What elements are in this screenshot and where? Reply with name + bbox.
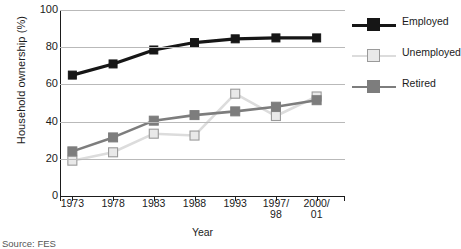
marker-unemployed-3 [190, 131, 199, 140]
legend-marker-icon [367, 18, 380, 31]
x-axis-title: Year [60, 226, 345, 238]
gridline-60 [60, 84, 345, 85]
gridline-20 [60, 159, 345, 160]
legend-item-employed[interactable]: Employed [352, 12, 455, 43]
marker-employed-0 [68, 71, 76, 79]
marker-unemployed-5 [271, 112, 280, 121]
source-note: Source: FES [2, 238, 56, 249]
marker-retired-0 [68, 147, 77, 156]
marker-retired-3 [190, 111, 199, 120]
gridline-40 [60, 122, 345, 123]
marker-unemployed-1 [109, 148, 118, 157]
legend-label: Employed [402, 15, 449, 27]
y-tick-100: 100 [24, 4, 58, 15]
legend-item-unemployed[interactable]: Unemployed [352, 43, 455, 74]
marker-retired-1 [109, 133, 118, 142]
chart-legend: EmployedUnemployedRetired [352, 12, 455, 105]
marker-employed-4 [231, 35, 239, 43]
legend-marker-icon [367, 80, 380, 93]
x-tick-line: 01 [287, 209, 347, 220]
series-lines [60, 10, 345, 196]
y-tick-80: 80 [24, 41, 58, 52]
y-tick-40: 40 [24, 116, 58, 127]
marker-employed-1 [109, 60, 117, 68]
plot-area [60, 10, 345, 196]
legend-marker-icon [367, 49, 380, 62]
y-tick-60: 60 [24, 78, 58, 89]
gridline-100 [60, 10, 345, 11]
legend-swatch-employed [352, 18, 396, 32]
marker-employed-3 [191, 39, 199, 47]
gridline-80 [60, 47, 345, 48]
y-tick-20: 20 [24, 153, 58, 164]
marker-employed-6 [313, 34, 321, 42]
marker-retired-6 [312, 96, 321, 105]
legend-swatch-retired [352, 80, 396, 94]
marker-unemployed-0 [68, 156, 77, 165]
x-tick-6: 2000/01 [287, 198, 347, 220]
legend-item-retired[interactable]: Retired [352, 74, 455, 105]
y-axis-tick-labels: 100806040200 [24, 0, 58, 249]
marker-employed-5 [272, 34, 280, 42]
marker-retired-5 [271, 102, 280, 111]
legend-label: Retired [402, 77, 436, 89]
marker-retired-4 [231, 107, 240, 116]
marker-unemployed-2 [149, 129, 158, 138]
legend-label: Unemployed [402, 46, 461, 58]
marker-unemployed-4 [231, 89, 240, 98]
legend-swatch-unemployed [352, 49, 396, 63]
